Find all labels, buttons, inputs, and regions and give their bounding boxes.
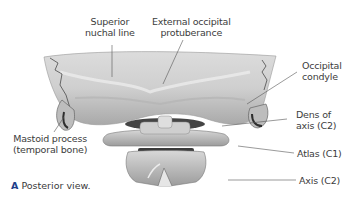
label-line: axis (C2) (296, 120, 336, 131)
label-axis: Axis (C2) (299, 175, 340, 186)
label-line: Mastoid process (13, 133, 87, 144)
label-mastoid-process: Mastoid process (temporal bone) (13, 133, 87, 155)
label-line: (temporal bone) (13, 144, 87, 155)
label-external-occipital-protuberance: External occipital protuberance (152, 16, 231, 38)
label-occipital-condyle: Occipital condyle (302, 60, 342, 82)
label-line: Superior (85, 16, 135, 27)
label-dens-of-axis: Dens of axis (C2) (296, 109, 336, 131)
label-line: nuchal line (85, 27, 135, 38)
figure-caption: A Posterior view. (11, 180, 90, 191)
caption-text: Posterior view. (21, 180, 90, 191)
caption-letter: A (11, 180, 18, 191)
label-line: protuberance (152, 27, 231, 38)
label-line: Occipital (302, 60, 342, 71)
label-superior-nuchal-line: Superior nuchal line (85, 16, 135, 38)
label-line: External occipital (152, 16, 231, 27)
label-line: Dens of (296, 109, 336, 120)
label-atlas: Atlas (C1) (297, 148, 342, 159)
label-line: condyle (302, 71, 342, 82)
